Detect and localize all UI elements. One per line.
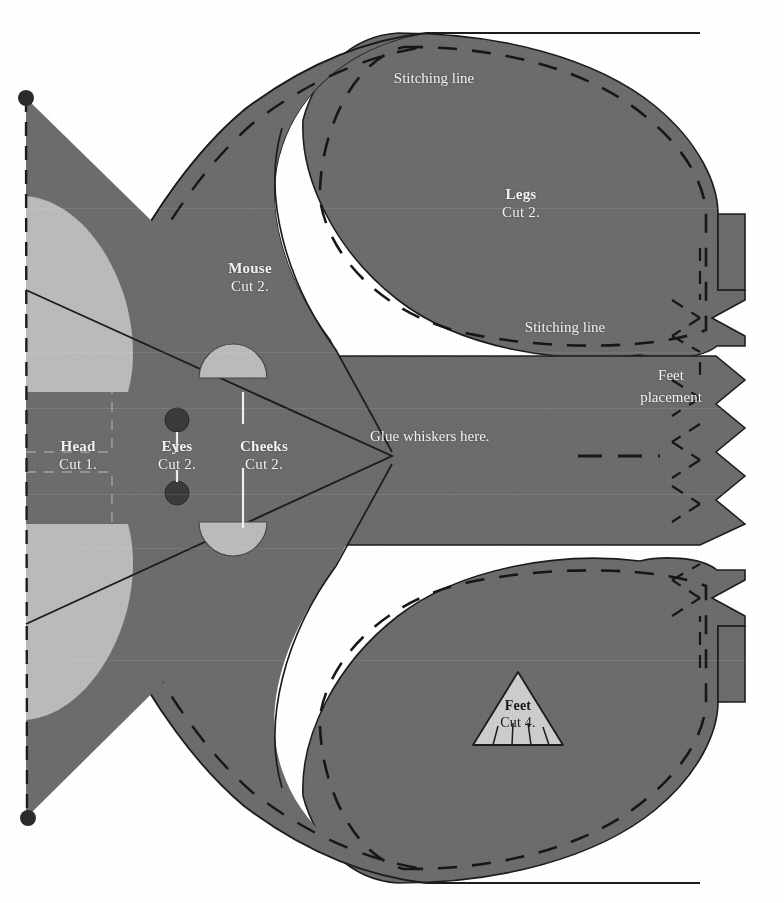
eye-upper-icon: [165, 408, 189, 432]
pattern-illustration: [0, 0, 784, 903]
legs-lower-tab: [718, 626, 745, 702]
registration-dot-bottom: [20, 810, 36, 826]
pattern-sheet: Head Cut 1. Eyes Cut 2. Cheeks Cut 2. Mo…: [0, 0, 784, 903]
eye-lower-icon: [165, 481, 189, 505]
legs-tab: [718, 214, 745, 290]
registration-dot-top: [18, 90, 34, 106]
